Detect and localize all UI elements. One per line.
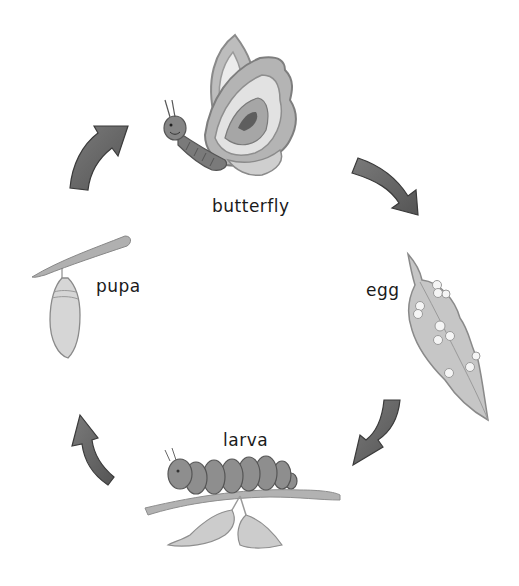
stage-label-pupa: pupa <box>96 276 141 296</box>
chrysalis-illustration <box>32 236 131 358</box>
butterfly-illustration <box>164 35 296 175</box>
stage-label-egg: egg <box>366 280 400 300</box>
arrow-larva-to-pupa <box>72 415 114 485</box>
life-cycle-diagram: butterfly egg larva pupa <box>0 0 519 586</box>
stage-label-butterfly: butterfly <box>212 196 290 216</box>
stage-label-larva: larva <box>223 430 268 450</box>
caterpillar-illustration <box>145 448 340 548</box>
arrow-pupa-to-butterfly <box>70 126 128 190</box>
arrow-butterfly-to-egg <box>352 158 418 215</box>
leaf-with-eggs-illustration <box>408 254 488 420</box>
arrow-egg-to-larva <box>353 400 400 465</box>
diagram-canvas <box>0 0 519 586</box>
